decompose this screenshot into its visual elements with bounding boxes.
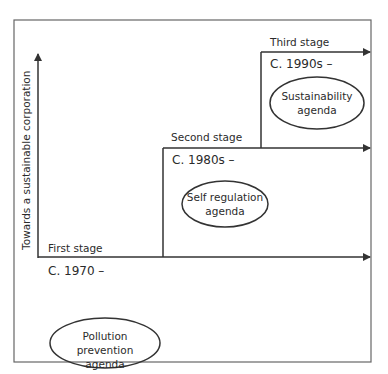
pollution-prevention-line2: agenda — [55, 357, 155, 371]
first-stage-period: C. 1970 – — [48, 264, 104, 278]
first-stage-label: First stage — [48, 242, 103, 254]
pollution-prevention-text: Pollution prevention agenda — [55, 329, 155, 371]
third-stage-period: C. 1990s – — [270, 57, 333, 71]
sustainability-line2: agenda — [272, 103, 362, 117]
second-stage-period: C. 1980s – — [172, 153, 235, 167]
sustainability-text: Sustainability agenda — [272, 89, 362, 117]
self-regulation-line2: agenda — [183, 204, 267, 218]
second-stage-label: Second stage — [171, 131, 242, 143]
y-axis-label: Towards a sustainable corporation — [20, 71, 32, 250]
third-stage-label: Third stage — [270, 36, 329, 48]
self-regulation-text: Self regulation agenda — [183, 190, 267, 218]
self-regulation-line1: Self regulation — [183, 190, 267, 204]
pollution-prevention-line1: Pollution prevention — [55, 329, 155, 357]
sustainability-line1: Sustainability — [272, 89, 362, 103]
